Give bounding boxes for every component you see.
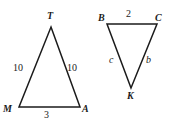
side-length-ma: 3 — [44, 110, 49, 120]
vertex-label-a: A — [82, 104, 89, 114]
side-length-ta: 10 — [67, 63, 77, 73]
vertex-label-t: T — [47, 11, 53, 21]
side-variable-b: b — [146, 55, 151, 65]
side-length-bc: 2 — [126, 9, 131, 19]
vertex-label-k: K — [127, 91, 134, 101]
vertex-label-m: M — [3, 104, 12, 114]
vertex-label-c: C — [155, 13, 162, 23]
geometry-figure: T M A 10 10 3 B C K 2 c b — [0, 0, 173, 125]
vertex-label-b: B — [98, 13, 105, 23]
side-variable-c: c — [109, 55, 113, 65]
side-length-mt: 10 — [13, 63, 23, 73]
